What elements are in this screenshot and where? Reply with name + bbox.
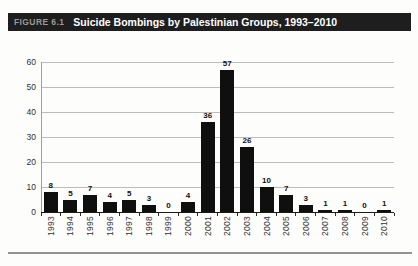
x-axis-tick [276,213,277,216]
x-axis-label-2006: 2006 [301,216,311,246]
x-axis-tick [237,213,238,216]
x-axis-label-1995: 1995 [85,216,95,246]
bar-1995 [83,195,97,213]
x-axis-tick [99,213,100,216]
y-axis-label-40: 40 [10,107,36,117]
gridline-20 [41,162,394,163]
x-axis-label-1997: 1997 [124,216,134,246]
y-axis-label-0: 0 [10,207,36,217]
y-axis-label-20: 20 [10,157,36,167]
x-axis-label-2002: 2002 [222,216,232,246]
x-axis-tick [394,213,395,216]
x-axis-label-1999: 1999 [163,216,173,246]
bar-chart: 0102030405060819935199471995419965199731… [0,0,418,266]
bar-2010 [377,210,391,213]
x-axis-label-1994: 1994 [65,216,75,246]
x-axis-tick [295,213,296,216]
bottom-divider [8,252,412,254]
x-axis-tick [256,213,257,216]
x-axis-label-1996: 1996 [105,216,115,246]
x-axis-tick [217,213,218,216]
y-axis-label-30: 30 [10,132,36,142]
x-axis-tick [60,213,61,216]
x-axis-tick [315,213,316,216]
x-axis-label-2001: 2001 [203,216,213,246]
x-axis-tick [374,213,375,216]
x-axis-tick [178,213,179,216]
bar-1997 [122,200,136,213]
x-axis-label-2004: 2004 [262,216,272,246]
bar-2002 [220,70,234,213]
y-axis-label-10: 10 [10,182,36,192]
x-axis-tick [119,213,120,216]
gridline-30 [41,137,394,138]
x-axis-tick [158,213,159,216]
x-axis-tick [335,213,336,216]
x-axis-label-2007: 2007 [320,216,330,246]
x-axis-label-2010: 2010 [379,216,389,246]
bar-1994 [63,200,77,213]
bar-2005 [279,195,293,213]
x-axis-label-2009: 2009 [360,216,370,246]
x-axis-label-2000: 2000 [183,216,193,246]
x-axis-tick [80,213,81,216]
bar-value-label-2001: 36 [196,111,220,120]
x-axis-label-2008: 2008 [340,216,350,246]
bar-2003 [240,147,254,212]
x-axis-tick [354,213,355,216]
bar-2001 [201,122,215,212]
bar-2000 [181,202,195,212]
x-axis-label-1998: 1998 [144,216,154,246]
x-axis-label-2005: 2005 [281,216,291,246]
x-axis-tick [197,213,198,216]
x-axis-label-2003: 2003 [242,216,252,246]
bar-2007 [318,210,332,213]
bar-2006 [299,205,313,213]
bar-1993 [44,192,58,212]
x-axis-label-1993: 1993 [46,216,56,246]
bar-value-label-2000: 4 [176,191,200,200]
bar-value-label-2002: 57 [215,59,239,68]
gridline-50 [41,87,394,88]
bar-value-label-1999: 0 [156,201,180,210]
y-axis-label-50: 50 [10,82,36,92]
bar-2008 [338,210,352,213]
x-axis-tick [41,213,42,216]
bar-value-label-2003: 26 [235,136,259,145]
y-axis-label-60: 60 [10,57,36,67]
figure-panel: FIGURE 6.1 Suicide Bombings by Palestini… [0,0,418,266]
bar-1998 [142,205,156,213]
bar-value-label-2005: 7 [274,184,298,193]
bar-2004 [260,187,274,212]
bar-value-label-2010: 1 [372,199,396,208]
bar-1996 [103,202,117,212]
x-axis-tick [139,213,140,216]
